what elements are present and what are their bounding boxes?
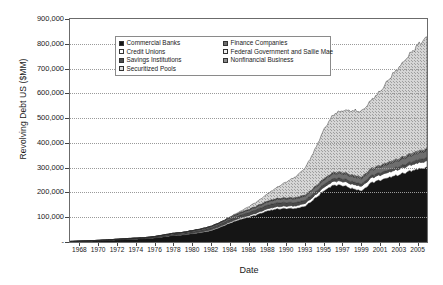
x-tick-mark xyxy=(342,243,343,246)
legend-label: Savings Institutions xyxy=(127,56,182,64)
y-tick-label: 700,000 xyxy=(8,65,64,73)
x-tick-label: 2005 xyxy=(405,246,431,254)
legend-swatch-icon xyxy=(119,41,124,46)
x-tick-mark xyxy=(361,243,362,246)
chart-legend: Commercial BanksFinance CompaniesCredit … xyxy=(115,36,331,76)
x-tick-mark xyxy=(249,243,250,246)
legend-item[interactable]: Nonfinancial Business xyxy=(223,56,327,65)
y-tick-label: 600,000 xyxy=(8,89,64,97)
gridline xyxy=(70,192,427,193)
legend-label: Securitized Pools xyxy=(127,65,176,73)
legend-item[interactable]: Securitized Pools xyxy=(119,65,223,74)
x-tick-mark xyxy=(211,243,212,246)
x-tick-mark xyxy=(173,243,174,246)
gridline xyxy=(70,93,427,94)
x-tick-mark xyxy=(305,243,306,246)
y-tick-label: 100,000 xyxy=(8,213,64,221)
x-tick-mark xyxy=(79,243,80,246)
x-axis-title: Date xyxy=(69,265,429,275)
legend-label: Nonfinancial Business xyxy=(231,56,294,64)
x-tick-mark xyxy=(267,243,268,246)
x-tick-mark xyxy=(136,243,137,246)
legend-item[interactable]: Commercial Banks xyxy=(119,39,223,48)
gridline xyxy=(70,143,427,144)
x-tick-mark xyxy=(418,243,419,246)
legend-item[interactable]: Finance Companies xyxy=(223,39,327,48)
legend-label: Commercial Banks xyxy=(127,39,181,47)
legend-swatch-icon xyxy=(119,49,124,54)
x-tick-mark xyxy=(192,243,193,246)
legend-swatch-icon xyxy=(223,49,228,54)
x-tick-mark xyxy=(98,243,99,246)
gridline xyxy=(70,168,427,169)
legend-label: Finance Companies xyxy=(231,39,288,47)
legend-item[interactable]: Credit Unions xyxy=(119,48,223,57)
legend-swatch-icon xyxy=(119,58,124,63)
y-tick-label: - xyxy=(8,238,64,246)
gridline xyxy=(70,118,427,119)
legend-swatch-icon xyxy=(223,41,228,46)
legend-label: Credit Unions xyxy=(127,48,166,56)
y-tick-label: 300,000 xyxy=(8,164,64,172)
legend-label: Federal Government and Sallie Mae xyxy=(231,48,334,56)
y-tick-label: 800,000 xyxy=(8,40,64,48)
legend-item[interactable]: Savings Institutions xyxy=(119,56,223,65)
y-tick-label: 400,000 xyxy=(8,139,64,147)
x-tick-mark xyxy=(380,243,381,246)
x-tick-mark xyxy=(155,243,156,246)
gridline xyxy=(70,217,427,218)
legend-item[interactable]: Federal Government and Sallie Mae xyxy=(223,48,327,57)
x-tick-mark xyxy=(286,243,287,246)
revolving-debt-area-chart: Revolving Debt US ($MM) 900,000800,00070… xyxy=(0,0,443,285)
legend-swatch-icon xyxy=(223,58,228,63)
x-tick-mark xyxy=(230,243,231,246)
y-tick-label: 200,000 xyxy=(8,188,64,196)
y-tick-label: 500,000 xyxy=(8,114,64,122)
legend-swatch-icon xyxy=(119,66,124,71)
x-tick-mark xyxy=(324,243,325,246)
x-tick-mark xyxy=(117,243,118,246)
x-tick-mark xyxy=(399,243,400,246)
y-tick-label: 900,000 xyxy=(8,15,64,23)
